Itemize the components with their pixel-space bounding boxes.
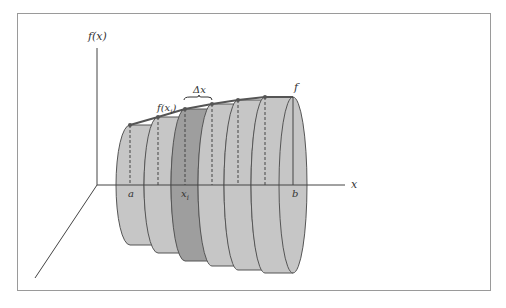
x-axis-label: x (351, 178, 358, 191)
curve-f-label: f (293, 81, 300, 94)
sample-point (128, 123, 132, 127)
b-label: b (292, 188, 298, 199)
sample-point (156, 115, 160, 119)
disk-method-diagram: f(x) x f f(xi) Δx a xi b (0, 0, 506, 308)
y-axis-label: f(x) (87, 30, 107, 43)
a-label: a (128, 188, 134, 199)
delta-x-label: Δx (192, 84, 206, 95)
sample-point (183, 107, 187, 111)
sample-point (210, 102, 214, 106)
sample-point (263, 95, 267, 99)
z-axis (35, 185, 97, 278)
delta-x-brace (184, 95, 212, 100)
sample-point (236, 98, 240, 102)
